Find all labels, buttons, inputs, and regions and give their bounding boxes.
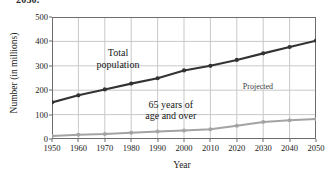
x-tick-label: 2030 [255,143,272,153]
y-tick-mark [49,114,52,115]
x-tick-mark [210,139,211,142]
x-tick-label: 2020 [228,143,245,153]
data-point-marker [52,134,54,138]
y-tick-label: 500 [35,12,48,22]
x-tick-mark [184,139,185,142]
data-point-marker [182,68,186,72]
annotation-total-population: Total population [97,47,140,69]
y-tick-label: 100 [35,110,48,120]
clipped-heading: 2050. [16,0,40,5]
annotation-elderly-line2: age and over [145,110,196,121]
y-tick-mark [49,90,52,91]
x-tick-label: 2040 [281,143,298,153]
y-tick-label: 400 [35,36,48,46]
data-point-marker [261,51,265,55]
x-tick-mark [316,139,317,142]
x-tick-label: 1960 [70,143,87,153]
x-tick-mark [131,139,132,142]
x-tick-label: 1970 [96,143,113,153]
x-tick-mark [157,139,158,142]
annotation-total-line1: Total [97,47,140,58]
x-tick-mark [104,139,105,142]
x-tick-mark [289,139,290,142]
x-tick-label: 1980 [123,143,140,153]
data-point-marker [103,87,107,91]
x-tick-mark [263,139,264,142]
x-axis-title: Year [48,160,316,170]
x-tick-label: 2010 [202,143,219,153]
annotation-projected: Projected [243,82,273,91]
data-point-marker [314,117,316,121]
plot-area: 0100200300400500 19501960197019801990200… [52,17,316,139]
y-tick-mark [49,17,52,18]
data-point-marker [261,120,265,124]
y-axis-title: Number (in millions) [9,13,19,133]
population-projection-chart: 2050. Number (in millions) Year 01002003… [0,0,333,176]
data-point-marker [208,127,212,131]
data-point-marker [76,133,80,137]
data-point-marker [129,82,133,86]
y-tick-mark [49,65,52,66]
y-tick-mark [49,41,52,42]
data-point-marker [129,131,133,135]
data-point-marker [235,124,239,128]
x-tick-mark [236,139,237,142]
data-point-marker [288,118,292,122]
data-point-marker [235,58,239,62]
x-tick-label: 2000 [176,143,193,153]
x-tick-label: 1990 [149,143,166,153]
data-point-marker [208,64,212,68]
data-point-marker [156,76,160,80]
y-tick-label: 300 [35,61,48,71]
x-tick-mark [78,139,79,142]
data-point-marker [288,45,292,49]
data-point-marker [182,128,186,132]
y-tick-label: 200 [35,85,48,95]
x-tick-mark [52,139,53,142]
x-tick-label: 1950 [44,143,61,153]
data-point-marker [156,129,160,133]
annotation-elderly: 65 years of age and over [145,99,196,121]
annotation-total-line2: population [97,58,140,69]
data-point-marker [103,132,107,136]
x-tick-label: 2050 [308,143,325,153]
data-point-marker [76,93,80,97]
annotation-elderly-line1: 65 years of [145,99,196,110]
